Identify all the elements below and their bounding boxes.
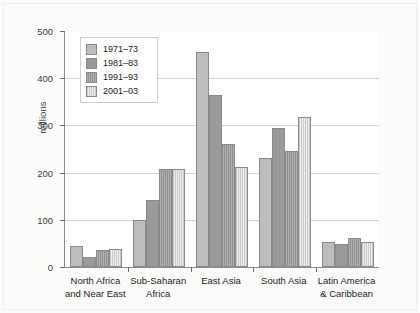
y-tick-label: 100 [37, 214, 53, 225]
legend-label: 2001–03 [103, 86, 138, 96]
y-tick-label: 400 [37, 73, 53, 84]
y-tick-mark: 200 [60, 173, 65, 174]
legend-label: 1981–83 [103, 58, 138, 68]
x-axis-label: Latin America & Caribbean [307, 275, 386, 300]
bar [298, 117, 311, 267]
bar [196, 52, 209, 267]
bar [109, 249, 122, 267]
bar [96, 250, 109, 267]
bar [83, 257, 96, 267]
bar [146, 200, 159, 267]
legend-swatch-icon [86, 58, 97, 69]
bar [222, 144, 235, 267]
x-tick-mark [191, 267, 192, 272]
legend-item: 1971–73 [86, 42, 152, 56]
bar-group [322, 31, 374, 267]
x-tick-mark [253, 267, 254, 272]
chart-figure: millions 0100200300400500 North Africa a… [0, 0, 420, 313]
y-tick-label: 300 [37, 120, 53, 131]
bar [361, 242, 374, 267]
x-tick-mark [128, 267, 129, 272]
bar [259, 158, 272, 267]
bar [285, 151, 298, 267]
y-tick-label: 500 [37, 26, 53, 37]
y-tick-label: 0 [48, 262, 53, 273]
legend-label: 1971–73 [103, 44, 138, 54]
y-tick-mark: 400 [60, 78, 65, 79]
bar [172, 169, 185, 267]
bar [209, 95, 222, 267]
legend-swatch-icon [86, 72, 97, 83]
y-axis-title: millions [37, 78, 48, 158]
bar [70, 246, 83, 267]
legend-label: 1991–93 [103, 72, 138, 82]
legend-swatch-icon [86, 86, 97, 97]
y-tick-mark: 500 [60, 31, 65, 32]
bar [235, 167, 248, 267]
bar [348, 238, 361, 267]
chart-legend: 1971–731981–831991–932001–03 [80, 37, 158, 103]
y-tick-mark: 100 [60, 220, 65, 221]
legend-item: 1981–83 [86, 56, 152, 70]
legend-item: 1991–93 [86, 70, 152, 84]
bar [322, 242, 335, 267]
bar [335, 244, 348, 267]
legend-item: 2001–03 [86, 84, 152, 98]
bar [159, 169, 172, 267]
y-tick-mark: 0 [60, 267, 65, 268]
bar-group [196, 31, 248, 267]
y-tick-mark: 300 [60, 125, 65, 126]
y-tick-label: 200 [37, 167, 53, 178]
legend-swatch-icon [86, 44, 97, 55]
x-tick-mark [316, 267, 317, 272]
bar [272, 128, 285, 267]
bar-group [259, 31, 311, 267]
bar [133, 220, 146, 267]
